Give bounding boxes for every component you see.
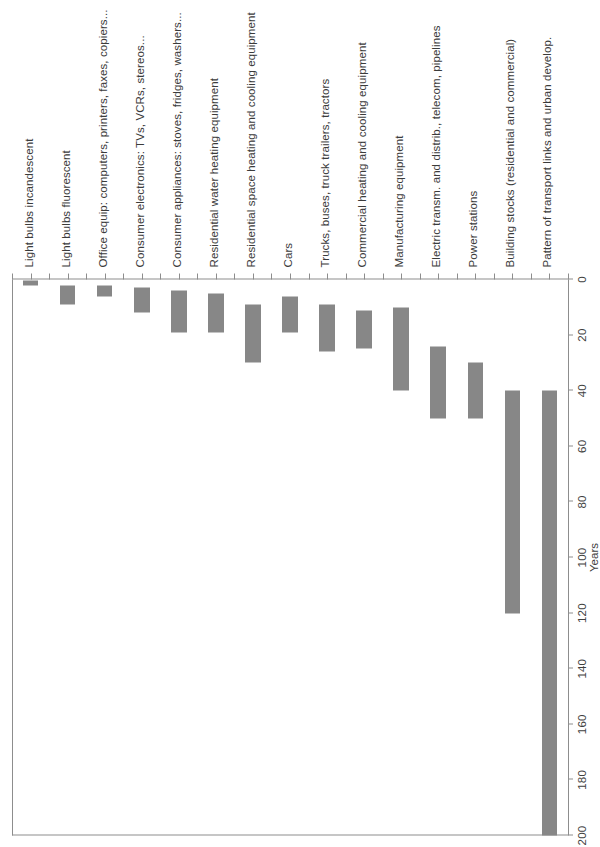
value-axis-tick-label: 100 xyxy=(576,547,588,567)
value-axis-tick xyxy=(568,834,573,835)
value-axis-tick-label: 120 xyxy=(576,603,588,623)
category-label: Pattern of transport links and urban dev… xyxy=(541,0,553,267)
value-axis: 020406080100120140160180200 xyxy=(568,279,569,835)
category-label: Residential water heating equipment xyxy=(208,0,220,267)
category-label: Electric transm. and distrib., telecom, … xyxy=(430,0,442,267)
category-label: Residential space heating and cooling eq… xyxy=(245,0,257,267)
value-axis-tick-label: 20 xyxy=(576,328,588,341)
category-label: Consumer electronics: TVs, VCRs, stereos… xyxy=(134,0,146,267)
value-axis-tick-label: 80 xyxy=(576,495,588,508)
value-axis-tick-label: 200 xyxy=(576,825,588,845)
value-axis-title: Years xyxy=(588,279,600,835)
value-axis-tick-label: 0 xyxy=(576,276,588,283)
category-boundary-tick xyxy=(568,273,569,279)
category-axis-line xyxy=(12,278,568,279)
value-axis-tick xyxy=(568,389,573,390)
category-label: Building stocks (residential and commerc… xyxy=(504,0,516,267)
value-axis-tick xyxy=(568,334,573,335)
value-axis-tick xyxy=(568,500,573,501)
category-label: Commercial heating and cooling equipment xyxy=(356,0,368,267)
bar xyxy=(430,346,446,418)
value-axis-tick xyxy=(568,445,573,446)
bar xyxy=(468,362,484,418)
value-axis-tick-label: 60 xyxy=(576,439,588,452)
value-axis-tick-label: 140 xyxy=(576,658,588,678)
value-axis-tick-label: 40 xyxy=(576,384,588,397)
value-axis-tick xyxy=(568,556,573,557)
category-label: Power stations xyxy=(467,0,479,267)
category-label: Consumer appliances: stoves, fridges, wa… xyxy=(171,0,183,267)
category-label: Cars xyxy=(282,0,294,267)
value-axis-tick-label: 160 xyxy=(576,714,588,734)
category-label: Trucks, buses, truck trailers, tractors xyxy=(319,0,331,267)
value-axis-tick xyxy=(568,723,573,724)
value-axis-tick xyxy=(568,612,573,613)
value-axis-tick xyxy=(568,667,573,668)
category-label: Light bulbs incandescent xyxy=(23,0,35,267)
value-axis-tick xyxy=(568,778,573,779)
category-label: Office equip: computers, printers, faxes… xyxy=(97,0,109,267)
bar xyxy=(542,390,558,835)
category-label: Manufacturing equipment xyxy=(393,0,405,267)
value-axis-tick-label: 180 xyxy=(576,770,588,790)
bar xyxy=(505,390,521,612)
category-label: Light bulbs fluorescent xyxy=(60,0,72,267)
